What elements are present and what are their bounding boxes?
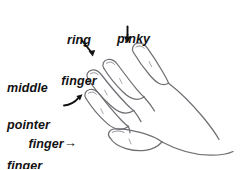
palm-back <box>128 83 233 155</box>
label-pointer-finger-line1: pointer <box>7 119 87 133</box>
hand-diagram-canvas: ring finger pinky middle finger→ pointer… <box>0 0 244 169</box>
pointer-finger-arrow <box>62 92 88 112</box>
thumb <box>109 129 162 151</box>
label-pointer-finger-line2: finger <box>7 160 87 170</box>
pinky-arrow <box>120 25 138 45</box>
